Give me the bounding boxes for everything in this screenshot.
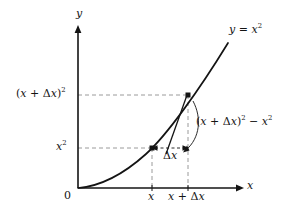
x-tick-label-high: x + Δx [168,191,205,202]
y-axis-label: y [76,8,82,19]
x-axis-label: x [247,180,253,191]
delta-x-label: Δx [163,150,177,161]
origin-label: 0 [64,190,71,201]
point-marker-high [186,93,191,98]
point-marker-low [150,146,155,151]
y-tick-label-low: x2 [56,141,67,152]
curve-equation-label: y = x2 [229,24,262,35]
x-tick-label-low: x [148,191,154,202]
y-tick-label-high: (x + Δx)2 [16,88,66,99]
difference-label: (x + Δx)2 − x2 [196,116,272,127]
